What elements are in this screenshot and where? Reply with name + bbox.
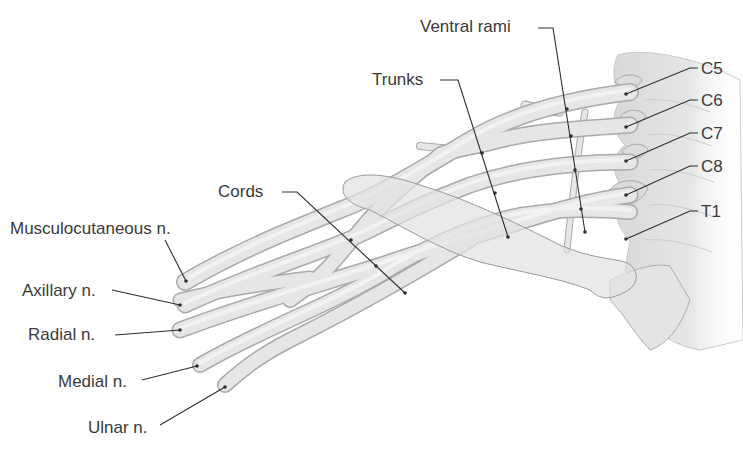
label-c7: C7	[701, 125, 723, 142]
label-trunks: Trunks	[372, 71, 423, 88]
label-c5: C5	[701, 60, 723, 77]
label-ventral-rami: Ventral rami	[420, 18, 511, 35]
label-c8: C8	[701, 158, 723, 175]
label-axillary-nerve: Axillary n.	[22, 282, 96, 299]
brachial-plexus-diagram: Ventral rami Trunks Cords Musculocutaneo…	[0, 0, 743, 449]
label-musculocutaneous-nerve: Musculocutaneous n.	[10, 220, 171, 237]
label-t1: T1	[701, 203, 721, 220]
nerves	[180, 90, 630, 385]
label-ulnar-nerve: Ulnar n.	[88, 419, 148, 436]
label-medial-nerve: Medial n.	[58, 373, 127, 390]
label-radial-nerve: Radial n.	[28, 326, 95, 343]
label-cords: Cords	[218, 183, 263, 200]
label-c6: C6	[701, 92, 723, 109]
